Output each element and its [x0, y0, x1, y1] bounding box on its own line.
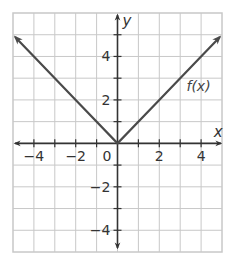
x-axis-label: x [213, 123, 223, 141]
origin-label: 0 [103, 148, 112, 164]
axes [15, 15, 221, 248]
coordinate-plane: −4−22442−2−4 x y 0 f(x) [0, 0, 233, 265]
y-tick-label: 2 [102, 92, 111, 108]
y-tick-label: −2 [90, 179, 111, 195]
x-tick-label: −2 [65, 148, 86, 164]
x-tick-label: 2 [155, 148, 164, 164]
x-tick-label: −4 [24, 148, 45, 164]
y-axis-label: y [122, 12, 133, 30]
function-label: f(x) [186, 78, 210, 94]
y-tick-label: 4 [102, 48, 111, 64]
x-tick-label: 4 [197, 148, 206, 164]
y-tick-label: −4 [90, 222, 111, 238]
